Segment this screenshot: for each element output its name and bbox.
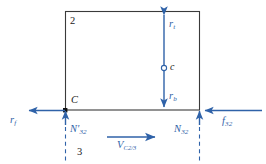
radius-top-subscript: t xyxy=(173,23,175,31)
normal-force-left-subscript: 32 xyxy=(79,128,86,136)
center-point-marker xyxy=(161,65,166,70)
friction-force-right-label: f32 xyxy=(222,116,232,127)
friction-force-left-label: rf xyxy=(10,115,16,126)
relative-velocity-label: VC2/3 xyxy=(117,140,136,151)
normal-force-left-symbol: N xyxy=(70,123,77,134)
normal-force-right-subscript: 32 xyxy=(181,128,188,136)
radius-top-label: rt xyxy=(169,19,175,30)
diagram-canvas: 2 C c rt rb rf f32 N'32 N32 VC2/3 3 xyxy=(0,0,266,164)
normal-force-right-label: N32 xyxy=(174,124,188,135)
radius-bottom-subscript: b xyxy=(173,95,177,103)
ground-label: 3 xyxy=(77,147,82,158)
body-label: 2 xyxy=(70,16,75,27)
contact-point-label: C xyxy=(71,95,78,106)
friction-force-left-subscript: f xyxy=(14,119,16,127)
relative-velocity-subscript: C2/3 xyxy=(124,144,137,151)
relative-velocity-symbol: V xyxy=(117,139,123,150)
normal-force-right-symbol: N xyxy=(174,123,181,134)
center-point-label: c xyxy=(170,62,174,72)
body-rectangle xyxy=(66,12,200,111)
normal-force-left-label: N'32 xyxy=(70,124,86,135)
radius-bottom-label: rb xyxy=(169,91,177,102)
friction-force-right-subscript: 32 xyxy=(225,120,232,128)
